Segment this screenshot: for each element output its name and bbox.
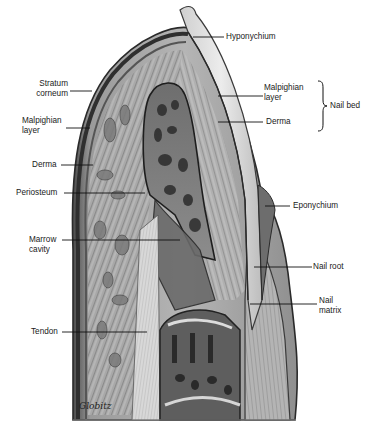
label-stratum-corneum: Stratum corneum [20,79,68,98]
label-nail-matrix-line1: Nail [319,296,341,306]
nail-bed-brace [318,81,327,131]
label-nail-matrix-line2: matrix [319,306,341,316]
fingertip-section-illustration [0,0,370,430]
artist-signature: Globitz [79,401,111,411]
label-nail-root: Nail root [313,262,344,272]
label-derma-right: Derma [266,117,291,127]
label-malpighian-left-line2: layer [22,126,62,136]
label-malpighian-right: Malpighian layer [264,83,304,102]
label-stratum-corneum-line1: Stratum [20,79,68,89]
label-malpighian-left: Malpighian layer [22,116,62,135]
label-derma-left: Derma [32,160,57,170]
label-tendon: Tendon [31,327,58,337]
label-malpighian-left-line1: Malpighian [22,116,62,126]
label-marrow-cavity: Marrow cavity [29,235,56,254]
label-malpighian-right-line2: layer [264,93,304,103]
label-eponychium: Eponychium [293,201,338,211]
label-hyponychium: Hyponychium [226,32,276,42]
label-periosteum: Periosteum [16,188,57,198]
label-marrow-cavity-line1: Marrow [29,235,56,245]
label-stratum-corneum-line2: corneum [20,89,68,99]
label-nail-bed: Nail bed [330,101,360,111]
label-marrow-cavity-line2: cavity [29,245,56,255]
label-malpighian-right-line1: Malpighian [264,83,304,93]
label-nail-matrix: Nail matrix [319,296,341,315]
